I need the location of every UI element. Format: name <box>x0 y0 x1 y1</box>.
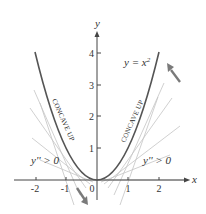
svg-text:-1: -1 <box>61 183 69 194</box>
curve-label: y = x2 <box>123 56 151 68</box>
svg-text:1: 1 <box>89 143 94 154</box>
concavity-diagram: -2 -1 0 1 2 1 2 3 4 y x y = x2 y'' > 0 y… <box>0 0 206 214</box>
x-axis-label: x <box>191 173 197 185</box>
axes <box>14 36 186 200</box>
svg-text:1: 1 <box>126 183 131 194</box>
svg-text:3: 3 <box>89 80 94 91</box>
svg-text:2: 2 <box>89 111 94 122</box>
svg-text:4: 4 <box>89 48 94 59</box>
y-axis-label: y <box>94 17 100 29</box>
svg-text:2: 2 <box>157 183 162 194</box>
x-axis-arrowhead <box>184 178 190 183</box>
left-region-label: y'' > 0 <box>30 154 60 166</box>
y-tick-labels: 1 2 3 4 <box>89 48 94 154</box>
y-axis-arrowhead <box>95 31 100 37</box>
x-tick-labels: -2 -1 0 1 2 <box>31 183 162 194</box>
svg-text:-2: -2 <box>31 183 39 194</box>
svg-text:0: 0 <box>90 183 95 194</box>
right-region-label: y'' > 0 <box>142 154 172 166</box>
